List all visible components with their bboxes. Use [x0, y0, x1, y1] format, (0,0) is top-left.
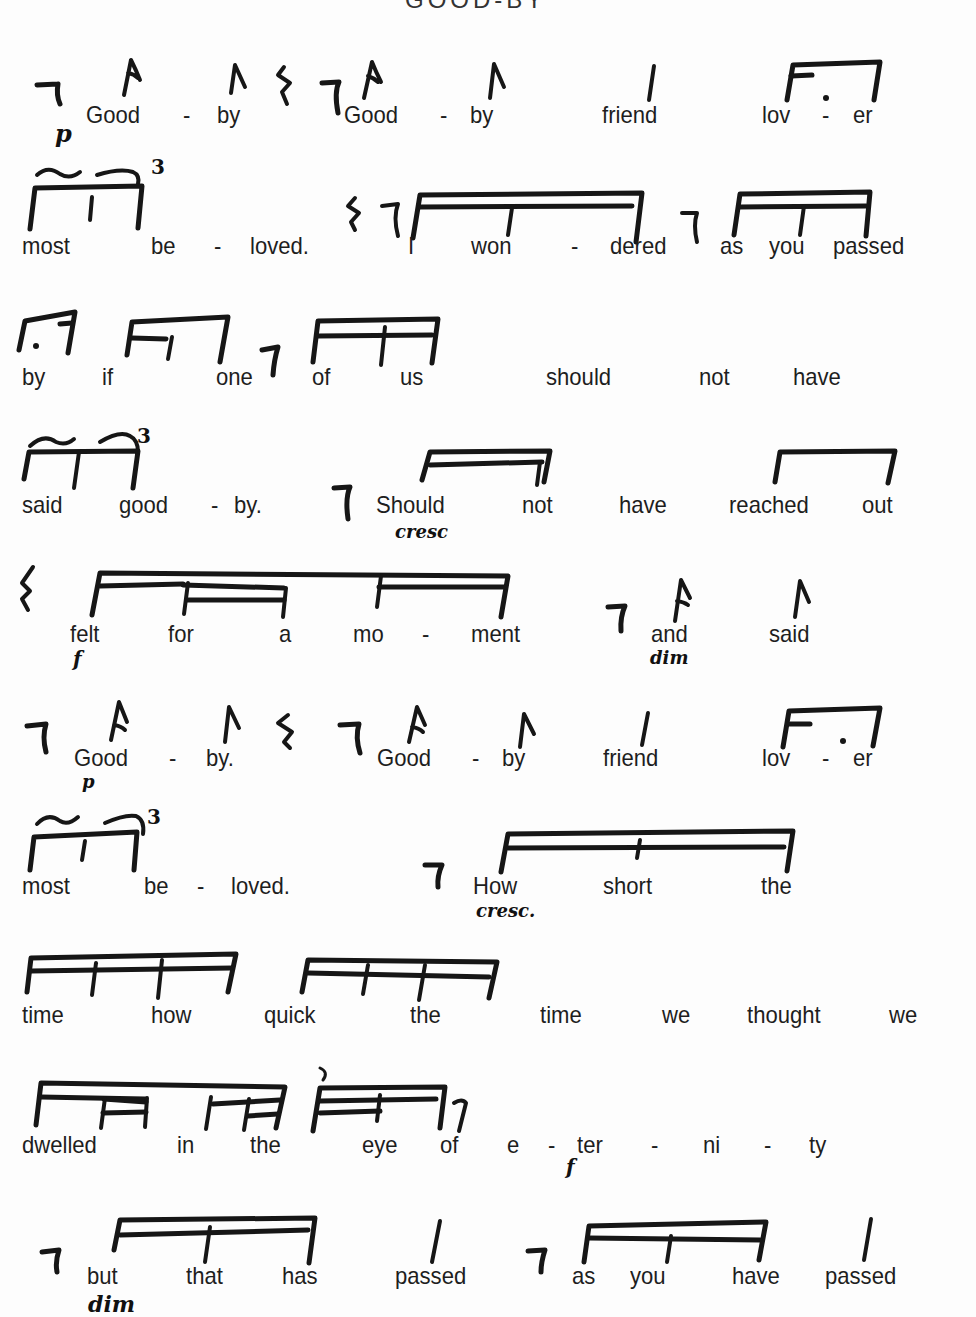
lyric-syllable: short — [603, 874, 652, 898]
lyric-syllable: be — [151, 234, 176, 258]
dynamic-piano: p — [55, 122, 72, 146]
lyric-hyphen: - — [169, 746, 176, 770]
dynamic-forte: f — [566, 1155, 575, 1179]
dynamic-crescendo: cresc. — [476, 899, 535, 923]
lyric-syllable: eye — [362, 1133, 398, 1157]
lyric-syllable: er — [853, 103, 873, 127]
lyric-syllable: of — [312, 365, 330, 389]
lyric-syllable: as — [720, 234, 743, 258]
lyric-syllable: passed — [825, 1264, 896, 1288]
score-row-8: time how quick the time we thought we — [0, 940, 976, 1040]
lyric-syllable: friend — [603, 746, 658, 770]
lyric-syllable: I — [408, 234, 414, 258]
lyric-hyphen: - — [197, 874, 204, 898]
lyric-syllable: not — [699, 365, 730, 389]
triplet-number: 3 — [137, 424, 151, 448]
rhythm-notation-row-5 — [0, 555, 976, 675]
score-row-10: but that has passed as you have passed d… — [0, 1190, 976, 1317]
lyric-syllable: ter — [577, 1133, 603, 1157]
lyric-hyphen: - — [822, 746, 829, 770]
lyric-syllable: friend — [602, 103, 657, 127]
lyric-syllable: ment — [471, 622, 520, 646]
lyric-syllable: you — [769, 234, 805, 258]
lyric-syllable: won — [471, 234, 512, 258]
lyric-syllable: should — [546, 365, 611, 389]
lyric-syllable: quick — [264, 1003, 316, 1027]
lyric-syllable: you — [630, 1264, 666, 1288]
rhythm-notation-row-9 — [0, 1055, 976, 1180]
score-row-1: Good - by Good - by friend lov - er p — [0, 0, 976, 160]
lyric-syllable: by — [22, 365, 45, 389]
triplet-number: 3 — [151, 155, 165, 179]
lyric-syllable: loved. — [231, 874, 290, 898]
lyric-syllable: out — [862, 493, 893, 517]
lyric-syllable: of — [440, 1133, 458, 1157]
lyric-hyphen: - — [211, 493, 218, 517]
dynamic-diminuendo: dim — [650, 646, 688, 670]
lyric-syllable: by. — [206, 746, 234, 770]
lyric-hyphen: - — [472, 746, 479, 770]
lyric-syllable: not — [522, 493, 553, 517]
lyric-syllable: one — [216, 365, 253, 389]
lyric-syllable: thought — [747, 1003, 821, 1027]
rhythm-notation-row-1 — [0, 0, 976, 160]
lyric-syllable: by — [502, 746, 525, 770]
lyric-syllable: ty — [809, 1133, 826, 1157]
lyric-syllable: as — [572, 1264, 595, 1288]
lyric-syllable: How — [473, 874, 517, 898]
lyric-syllable: in — [177, 1133, 194, 1157]
lyric-hyphen: - — [214, 234, 221, 258]
lyric-syllable: good — [119, 493, 168, 517]
lyric-syllable: said — [22, 493, 63, 517]
lyric-syllable: e — [507, 1133, 519, 1157]
score-row-4: 3 said good - by. Should not have reache… — [0, 410, 976, 550]
lyric-syllable: time — [22, 1003, 64, 1027]
lyric-syllable: most — [22, 234, 70, 258]
lyric-syllable: be — [144, 874, 169, 898]
lyric-syllable: Good — [74, 746, 128, 770]
lyric-syllable: Good — [86, 103, 140, 127]
lyric-syllable: dered — [610, 234, 666, 258]
lyric-syllable: lov — [762, 103, 790, 127]
lyric-syllable: Should — [376, 493, 445, 517]
lyric-hyphen: - — [422, 622, 429, 646]
lyric-syllable: said — [769, 622, 810, 646]
lyric-syllable: passed — [395, 1264, 466, 1288]
lyric-syllable: have — [619, 493, 667, 517]
lyric-hyphen: - — [183, 103, 190, 127]
lyric-syllable: but — [87, 1264, 118, 1288]
lyric-syllable: that — [186, 1264, 223, 1288]
lyric-syllable: felt — [70, 622, 99, 646]
dynamic-piano: p — [82, 770, 95, 794]
rhythm-notation-row-6 — [0, 690, 976, 800]
rhythm-notation-row-3 — [0, 290, 976, 410]
lyric-syllable: passed — [833, 234, 904, 258]
score-row-9: dwelled in the eye of e - ter - ni - ty … — [0, 1055, 976, 1180]
dynamic-diminuendo: dim — [88, 1292, 135, 1316]
lyric-syllable: the — [250, 1133, 281, 1157]
lyric-hyphen: - — [764, 1133, 771, 1157]
lyric-syllable: Good — [344, 103, 398, 127]
lyric-syllable: has — [282, 1264, 318, 1288]
lyric-syllable: we — [889, 1003, 917, 1027]
lyric-syllable: and — [651, 622, 688, 646]
lyric-syllable: how — [151, 1003, 192, 1027]
lyric-syllable: er — [853, 746, 873, 770]
rhythm-notation-row-8 — [0, 940, 976, 1040]
lyric-syllable: most — [22, 874, 70, 898]
lyric-syllable: for — [168, 622, 194, 646]
score-row-5: felt for a mo - ment and said f dim — [0, 555, 976, 675]
rhythm-notation-row-2 — [0, 150, 976, 280]
dynamic-crescendo: cresc — [395, 520, 448, 544]
lyric-hyphen: - — [548, 1133, 555, 1157]
lyric-syllable: dwelled — [22, 1133, 97, 1157]
score-row-7: 3 most be - loved. How short the cresc. — [0, 800, 976, 925]
lyric-syllable: if — [102, 365, 113, 389]
rhythm-notation-row-10 — [0, 1190, 976, 1317]
lyric-syllable: the — [761, 874, 792, 898]
lyric-syllable: time — [540, 1003, 582, 1027]
score-row-3: by if one of us should not have — [0, 290, 976, 410]
lyric-syllable: Good — [377, 746, 431, 770]
lyric-syllable: have — [732, 1264, 780, 1288]
lyric-syllable: mo — [353, 622, 384, 646]
